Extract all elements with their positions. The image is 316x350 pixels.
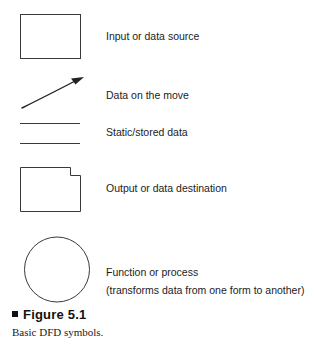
label-output-data-destination: Output or data destination (106, 182, 227, 194)
caption-subtitle: Basic DFD symbols. (12, 326, 312, 338)
label-data-on-the-move: Data on the move (106, 89, 189, 101)
filled-square-bullet-icon (12, 311, 18, 317)
input-data-source-rectangle (21, 15, 81, 59)
figure-caption: Figure 5.1 Basic DFD symbols. (12, 306, 312, 338)
label-input-data-source: Input or data source (106, 30, 199, 42)
label-function-or-process: Function or process (106, 266, 198, 278)
output-data-destination-shape (21, 168, 81, 212)
figure-container: Input or data source Data on the move St… (0, 0, 316, 350)
function-process-circle (25, 237, 90, 302)
label-static-stored-data: Static/stored data (106, 126, 188, 138)
caption-title-row: Figure 5.1 (12, 306, 312, 322)
data-on-the-move-arrow (22, 80, 77, 108)
caption-title: Figure 5.1 (23, 307, 86, 322)
data-on-the-move-arrowhead (71, 77, 84, 85)
dfd-symbols-drawing (0, 0, 316, 350)
label-function-or-process-detail: (transforms data from one form to anothe… (106, 284, 304, 296)
